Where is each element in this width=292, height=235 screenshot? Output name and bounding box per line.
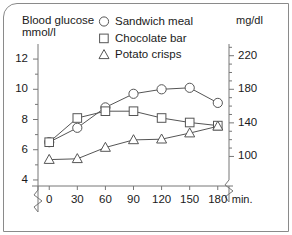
y-axis-tick-label: 10 [10, 82, 28, 94]
square-marker-icon [185, 118, 194, 127]
x-axis-unit-label: min. [232, 193, 253, 205]
square-marker-icon [45, 138, 54, 147]
y-axis-tick-label: 6 [10, 143, 28, 155]
y2-axis-tick-label: 140 [238, 116, 264, 128]
circle-marker-icon [185, 83, 194, 92]
x-axis-tick-label: 150 [177, 193, 203, 205]
y-axis-tick-label: 12 [10, 52, 28, 64]
glucose-response-chart: Blood glucosemmol/l mg/dl Sandwich meal … [0, 0, 292, 235]
circle-marker-icon [213, 98, 222, 107]
y2-axis-tick-label: 180 [238, 82, 264, 94]
y-axis-tick-label: 8 [10, 113, 28, 125]
x-axis-tick-label: 60 [92, 193, 118, 205]
series-potato-crisps [44, 121, 223, 163]
x-axis-tick-label: 30 [64, 193, 90, 205]
square-marker-icon [73, 114, 82, 123]
square-marker-icon [101, 107, 110, 116]
triangle-marker-icon [72, 154, 82, 163]
x-axis-tick-label: 180 [205, 193, 231, 205]
square-marker-icon [129, 107, 138, 116]
x-axis-tick-label: 120 [149, 193, 175, 205]
y-axis-tick-label: 4 [10, 173, 28, 185]
circle-marker-icon [73, 123, 82, 132]
circle-marker-icon [157, 85, 166, 94]
y2-axis-tick-label: 100 [238, 149, 264, 161]
x-axis-tick-label: 90 [121, 193, 147, 205]
square-marker-icon [157, 114, 166, 123]
circle-marker-icon [129, 89, 138, 98]
triangle-marker-icon [129, 135, 139, 144]
x-axis-tick-label: 0 [36, 193, 62, 205]
y2-axis-tick-label: 220 [238, 49, 264, 61]
triangle-marker-icon [44, 154, 54, 163]
